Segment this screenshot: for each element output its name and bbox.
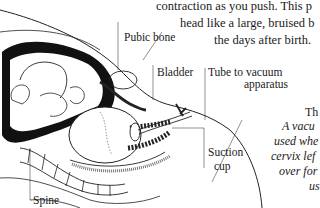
caption-line-2: used whe bbox=[274, 133, 318, 149]
caption-line-3: cervix lef bbox=[271, 148, 315, 164]
caption-line-5: us bbox=[309, 178, 320, 194]
label-tube-line2: apparatus bbox=[244, 78, 288, 91]
label-bladder: Bladder bbox=[157, 66, 193, 79]
label-spine: Spine bbox=[33, 194, 59, 207]
body-text-line-2: head like a large, bruised b bbox=[180, 15, 314, 32]
label-suction-line2: cup bbox=[214, 160, 231, 173]
label-suction-line1: Suction bbox=[208, 146, 243, 159]
caption-line-4: over for bbox=[279, 163, 317, 179]
caption-line-1: A vacu bbox=[282, 118, 315, 134]
body-text-line-1: contraction as you push. This p bbox=[156, 0, 312, 15]
label-pubic-bone: Pubic bone bbox=[124, 31, 175, 44]
body-text-line-3: the days after birth. bbox=[214, 32, 311, 49]
